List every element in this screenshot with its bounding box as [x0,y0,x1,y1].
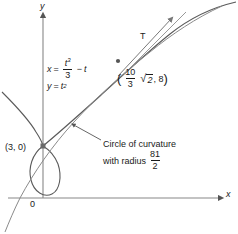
curve-branch-upper-left [2,92,43,146]
point-label-tangency: ( 10 3 √ 2 , 8 ) [117,68,168,89]
figure-graphic [0,0,238,234]
tangency-y-coordinate: , 8 [153,74,163,84]
tangency-close-paren: ) [163,72,167,85]
tangency-numerator: 10 [123,68,137,78]
point-label-y-intercept: (3, 0) [5,143,26,152]
equation-x-denominator: 3 [63,69,72,80]
curvature-radius-numerator: 81 [148,150,162,160]
tangency-radicand: 2 [146,74,153,85]
equation-x-variable: x [47,64,52,74]
equation-x-equals: = [54,64,59,74]
curvature-annotation: Circle of curvature with radius 81 2 [103,135,176,169]
figure-container: y x 0 (3, 0) T x = t3 3 − t y = t2 ( 10 … [0,0,238,234]
equation-y-rhs-exponent: 2 [63,83,66,89]
y-axis-label: y [40,2,45,11]
equation-y-equals: = [54,81,59,91]
curvature-radius-prefix: with radius [103,156,146,166]
point-marker-tangency [116,59,120,63]
curvature-annotation-line2: with radius 81 2 [103,152,176,169]
equation-x-numerator-exponent: 3 [67,57,70,63]
annotation-leader-line [72,124,101,140]
equation-y-variable: y [47,81,52,91]
tangent-line-label: T [140,32,146,41]
point-marker-node [41,144,46,149]
curvature-radius-fraction: 81 2 [148,150,162,171]
x-axis-label: x [226,190,231,199]
tangency-fraction: 10 3 [123,68,137,89]
origin-label: 0 [30,200,35,209]
tangency-denominator: 3 [126,78,135,89]
tangency-sqrt: √ 2 [140,73,153,85]
curvature-annotation-line1: Circle of curvature [103,135,176,152]
circle-of-curvature-lower-tail [5,198,20,232]
equation-x-fraction: t3 3 [63,57,73,80]
curvature-radius-denominator: 2 [151,160,160,171]
tangency-open-paren: ( [117,72,121,85]
curve-loop [30,146,60,195]
equation-x: x = t3 3 − t [47,60,86,77]
parametric-equations: x = t3 3 − t y = t2 [47,60,86,94]
equation-x-numerator: t3 [63,57,73,69]
equation-x-minus: − [77,64,82,74]
circle-of-curvature [20,6,222,198]
tangent-line-secondary [124,12,186,74]
equation-x-tail: t [84,64,87,74]
